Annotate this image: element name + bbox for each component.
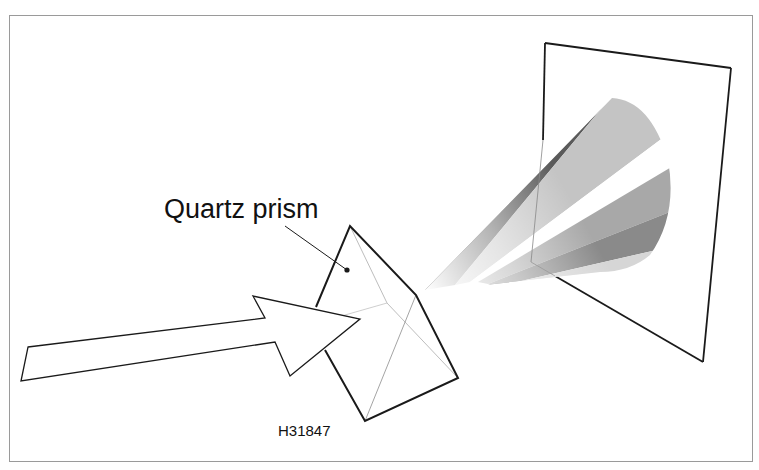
figure-id: H31847 xyxy=(278,422,331,439)
prism-label: Quartz prism xyxy=(164,194,319,225)
prism-diagram xyxy=(0,0,759,470)
incident-light-arrow xyxy=(21,296,360,381)
